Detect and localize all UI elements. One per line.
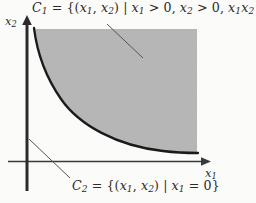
y-axis-c2-line [22,15,32,191]
x-axis [8,157,211,165]
c2-name: C [72,178,82,193]
c1-var1: x [80,0,87,15]
x-axis-label: x1 [205,168,217,180]
leader-line-c2 [29,139,70,178]
c2-open-brace: {( [106,178,119,193]
math-figure: C1 = {(x1, x2) | x1 > 0, x2 > 0, x1x2 ⩾ … [0,0,256,203]
c1-cond2-op: > 0, [193,0,228,15]
figure-canvas [0,0,256,203]
y-axis-label-subscript: 2 [12,19,17,29]
c1-comma: , [93,0,101,15]
shaded-region-c1 [35,29,197,152]
c1-vertical-bar: | [123,0,131,15]
c2-vertical-bar: | [163,178,171,193]
c2-close-paren: ) [154,178,163,193]
c1-name: C [32,0,42,15]
c1-open-brace: {( [66,0,79,15]
label-set-c1: C1 = {(x1, x2) | x1 > 0, x2 > 0, x1x2 ⩾ … [32,2,256,16]
y-axis-label: x2 [5,16,17,28]
c1-cond3-op: ⩾ 1} [254,0,256,15]
c1-cond2-var: x [180,0,187,15]
label-set-c2: C2 = {(x1, x2) | x1 = 0} [72,180,220,194]
c1-cond1-var: x [132,0,139,15]
c2-equals: = [88,178,107,193]
c1-equals: = [48,0,67,15]
c1-close-paren: ) [114,0,123,15]
c2-comma: , [133,178,141,193]
c1-cond1-op: > 0, [145,0,180,15]
x-axis-label-subscript: 1 [212,171,217,181]
c2-var1: x [120,178,127,193]
c2-cond1-var: x [172,178,179,193]
